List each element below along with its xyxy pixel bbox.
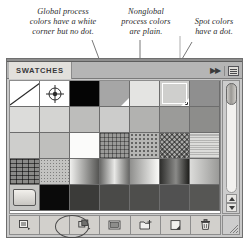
annotation-spot-colors: Spot colors have a dot. xyxy=(182,17,246,37)
scroll-down-arrow[interactable] xyxy=(226,203,237,212)
registration-target-icon xyxy=(46,85,64,103)
pattern-fine-swatch[interactable] xyxy=(190,133,220,159)
tab-divider xyxy=(224,66,225,76)
black-swatch[interactable] xyxy=(70,81,100,107)
gradient-swatch-5[interactable] xyxy=(190,159,220,185)
scroll-up-arrow[interactable] xyxy=(226,194,237,203)
pattern-zigzag-swatch[interactable] xyxy=(160,133,190,159)
swatch-grid-area[interactable] xyxy=(9,80,221,214)
swatch-options-button[interactable] xyxy=(100,216,130,234)
color-group-folder[interactable] xyxy=(10,185,40,211)
new-swatch-icon xyxy=(169,219,182,231)
show-swatch-kinds-menu-button[interactable] xyxy=(70,216,100,234)
annotation-nonglobal-process: Nonglobal process colors are plain. xyxy=(112,7,180,38)
panel-tab-strip: SWATCHES ▶▶ xyxy=(7,62,242,79)
registration-swatch[interactable] xyxy=(40,81,70,107)
screenshot-root: Global process colors have a white corne… xyxy=(0,0,249,242)
tint-swatch-5[interactable] xyxy=(130,107,160,133)
dark-swatch-1[interactable] xyxy=(40,185,70,211)
tint-swatch-9[interactable] xyxy=(40,133,70,159)
tint-swatch-6[interactable] xyxy=(160,107,190,133)
swatch-kinds-icon xyxy=(78,219,91,231)
pattern-brick-swatch[interactable] xyxy=(10,159,40,185)
dark-swatch-4[interactable] xyxy=(130,185,160,211)
scrollbar-thumb[interactable] xyxy=(226,83,237,105)
pattern-speckle-swatch[interactable] xyxy=(40,159,70,185)
tint-swatch-4[interactable] xyxy=(100,107,130,133)
panel-menu-icon[interactable] xyxy=(228,66,239,76)
spot-color-swatch[interactable] xyxy=(160,81,190,107)
swatch-options-icon xyxy=(108,219,121,231)
tint-swatch-3[interactable] xyxy=(70,107,100,133)
selected-swatch-outline xyxy=(162,83,187,104)
swatches-toolbar xyxy=(9,215,221,235)
dark-swatch-6[interactable] xyxy=(190,185,220,211)
gradient-swatch-2[interactable] xyxy=(100,159,130,185)
dark-swatch-5[interactable] xyxy=(160,185,190,211)
white-swatch[interactable] xyxy=(70,133,100,159)
swatch-libraries-icon xyxy=(18,219,31,231)
none-slash-icon xyxy=(10,81,40,107)
none-swatch[interactable] xyxy=(10,81,40,107)
gradient-swatch-4[interactable] xyxy=(160,159,190,185)
tint-swatch-7[interactable] xyxy=(190,107,220,133)
dark-swatch-3[interactable] xyxy=(100,185,130,211)
swatch-scrollbar[interactable] xyxy=(222,80,240,214)
gradient-swatch-3[interactable] xyxy=(130,159,160,185)
pattern-plaid-swatch[interactable] xyxy=(100,133,130,159)
light-plain-swatch[interactable] xyxy=(130,81,160,107)
annotation-global-process: Global process colors have a white corne… xyxy=(14,7,112,38)
panel-resize-grip[interactable] xyxy=(222,215,240,235)
new-color-group-icon xyxy=(139,219,152,231)
swatch-grid xyxy=(10,81,220,211)
toolbar-spacer xyxy=(40,216,70,234)
tint-swatch-2[interactable] xyxy=(40,107,70,133)
tint-swatch-1[interactable] xyxy=(10,107,40,133)
swatch-libraries-menu-button[interactable] xyxy=(10,216,40,234)
collapse-panel-icon[interactable]: ▶▶ xyxy=(210,66,220,76)
trash-icon xyxy=(199,219,212,231)
pattern-dots-swatch[interactable] xyxy=(130,133,160,159)
tab-swatches[interactable]: SWATCHES xyxy=(9,62,72,79)
new-swatch-button[interactable] xyxy=(161,216,191,234)
dark-swatch-2[interactable] xyxy=(70,185,100,211)
color-group-folder-icon xyxy=(13,189,36,206)
midgray-swatch[interactable] xyxy=(190,81,220,107)
gray-global-swatch[interactable] xyxy=(100,81,130,107)
tint-swatch-8[interactable] xyxy=(10,133,40,159)
swatches-panel: SWATCHES ▶▶ xyxy=(6,58,243,238)
delete-swatch-button[interactable] xyxy=(191,216,220,234)
new-color-group-button[interactable] xyxy=(131,216,161,234)
gradient-swatch-1[interactable] xyxy=(70,159,100,185)
global-process-corner-marker xyxy=(121,98,129,106)
